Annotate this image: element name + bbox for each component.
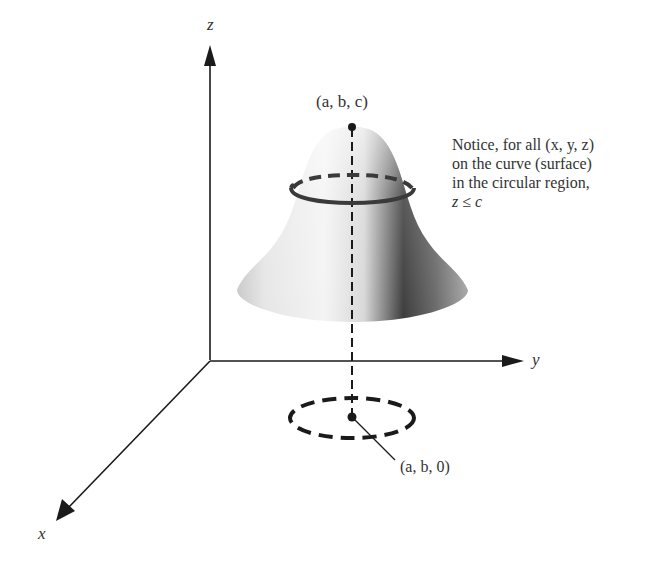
note-line-4: z ≤ c [452, 192, 594, 211]
peak-label: (a, b, c) [316, 92, 368, 112]
z-axis-label: z [207, 15, 214, 35]
note-line-2: on the curve (surface) [452, 154, 594, 173]
note-line-1: Notice, for all (x, y, z) [452, 135, 594, 154]
note-line-3: in the circular region, [452, 173, 594, 192]
peak-label-text: (a, b, c) [316, 92, 368, 111]
y-axis-arrowhead-icon [502, 355, 524, 367]
diagram-canvas [0, 0, 666, 561]
z-axis-arrowhead-icon [204, 45, 216, 66]
x-axis [68, 361, 210, 508]
base-leader-line [352, 417, 395, 460]
peak-point [348, 123, 356, 131]
y-axis-label: y [532, 350, 540, 370]
base-label: (a, b, 0) [400, 458, 450, 476]
base-label-text: (a, b, 0) [400, 458, 450, 475]
x-axis-arrowhead-icon [56, 499, 75, 521]
x-axis-label: x [38, 524, 46, 544]
annotation-note: Notice, for all (x, y, z) on the curve (… [452, 135, 594, 211]
